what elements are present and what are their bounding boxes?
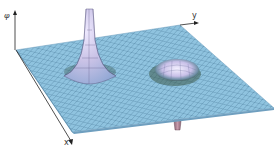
surface-plot-figure: φ y x [0,0,278,152]
arrow-up-icon [13,10,17,15]
axis-label-x: x [64,139,69,147]
axis-y [180,21,199,25]
surface-mesh [16,25,274,134]
axis-phi [13,10,17,50]
surface-plot-svg [0,0,278,152]
arrow-right-icon [194,21,199,25]
axis-label-phi: φ [4,12,10,20]
axis-label-y: y [192,12,197,20]
